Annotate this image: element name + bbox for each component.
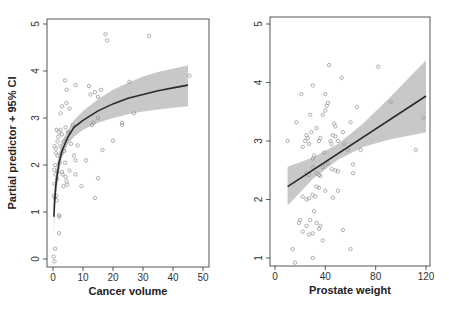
data-point	[53, 260, 56, 263]
data-point	[311, 232, 314, 235]
data-point	[63, 161, 66, 164]
y-tick-label: 2	[30, 162, 41, 168]
data-point	[312, 210, 315, 213]
x-tick-label: 50	[197, 272, 209, 283]
data-point	[324, 189, 327, 192]
data-point	[311, 256, 314, 259]
x-axis: 01020304050	[50, 267, 209, 283]
x-axis-title: Prostate weight	[309, 284, 391, 296]
y-tick-label: 3	[253, 138, 264, 144]
x-tick-label: 0	[272, 271, 278, 282]
data-point	[74, 83, 77, 86]
ci-band-area	[288, 60, 426, 205]
data-point	[315, 126, 318, 129]
y-axis: 012345	[30, 21, 47, 262]
data-point	[341, 228, 344, 231]
data-point	[64, 175, 67, 178]
panel-cancer-volume: 01020304050 012345 Cancer volume Partial…	[6, 19, 209, 297]
fit-line-path	[288, 96, 426, 187]
data-point	[377, 65, 380, 68]
data-point	[101, 148, 104, 151]
data-point	[65, 180, 68, 183]
data-point	[314, 195, 317, 198]
data-point	[326, 101, 329, 104]
data-point	[414, 148, 417, 151]
fitted-line	[288, 96, 426, 187]
data-point	[60, 105, 63, 108]
x-tick-label: 80	[370, 271, 382, 282]
data-point	[331, 196, 334, 199]
data-point	[309, 218, 312, 221]
data-point	[295, 121, 298, 124]
data-point	[306, 136, 309, 139]
data-point	[104, 33, 107, 36]
y-tick-label: 5	[253, 21, 264, 27]
data-point	[336, 139, 339, 142]
x-tick-label: 20	[107, 272, 119, 283]
data-point	[74, 159, 77, 162]
data-point	[147, 34, 150, 37]
data-point	[93, 91, 96, 94]
data-point	[105, 39, 108, 42]
data-point	[57, 135, 60, 138]
data-point	[60, 133, 63, 136]
data-point	[62, 185, 65, 188]
data-point	[66, 183, 69, 186]
data-point	[53, 247, 56, 250]
data-point	[300, 93, 303, 96]
data-point	[60, 170, 63, 173]
data-point	[96, 95, 99, 98]
data-point	[301, 230, 304, 233]
x-tick-label: 120	[418, 271, 435, 282]
data-point	[52, 255, 55, 258]
data-point	[80, 185, 83, 188]
data-point	[53, 163, 56, 166]
data-point	[69, 142, 72, 145]
data-point	[57, 232, 60, 235]
ci-band-area	[54, 65, 188, 235]
data-point	[321, 113, 324, 116]
data-point	[327, 63, 330, 66]
data-point	[53, 168, 56, 171]
figure: 01020304050 012345 Cancer volume Partial…	[0, 0, 449, 314]
data-point	[301, 145, 304, 148]
confidence-band	[288, 60, 426, 205]
data-point	[84, 159, 87, 162]
data-point	[307, 142, 310, 145]
x-tick-label: 10	[77, 272, 89, 283]
data-point	[63, 79, 66, 82]
y-tick-label: 4	[253, 79, 264, 85]
y-tick-label: 3	[30, 115, 41, 121]
panel-prostate-weight: 04080120 12345 Prostate weight	[253, 17, 435, 296]
data-point	[311, 84, 314, 87]
data-point	[65, 88, 68, 91]
data-point	[349, 121, 352, 124]
data-point	[351, 163, 354, 166]
data-point	[99, 88, 102, 91]
data-point	[64, 126, 67, 129]
data-point	[330, 167, 333, 170]
data-point	[120, 121, 123, 124]
data-point	[324, 93, 327, 96]
data-point	[307, 233, 310, 236]
data-point	[286, 139, 289, 142]
data-point	[74, 173, 77, 176]
data-point	[321, 239, 324, 242]
data-point	[355, 105, 358, 108]
data-point	[68, 107, 71, 110]
y-tick-label: 0	[30, 256, 41, 262]
data-point	[319, 224, 322, 227]
data-point	[341, 131, 344, 134]
y-tick-label: 1	[253, 255, 264, 261]
data-point	[111, 139, 114, 142]
y-tick-label: 4	[30, 68, 41, 74]
x-tick-label: 40	[320, 271, 332, 282]
data-point	[188, 74, 191, 77]
data-point	[96, 177, 99, 180]
x-tick-label: 0	[50, 272, 56, 283]
data-point	[304, 139, 307, 142]
data-point	[309, 113, 312, 116]
data-point	[61, 173, 64, 176]
data-point	[76, 144, 79, 147]
y-tick-label: 5	[30, 21, 41, 27]
